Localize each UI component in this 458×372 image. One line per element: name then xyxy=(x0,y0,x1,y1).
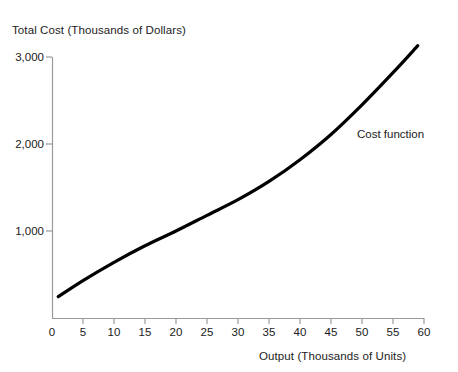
plot-area xyxy=(0,0,458,372)
axis-lines xyxy=(52,57,424,319)
x-axis-tick-label: 50 xyxy=(356,326,369,338)
y-axis-tick-marks xyxy=(46,57,52,231)
x-axis-tick-label: 40 xyxy=(294,326,307,338)
x-axis-tick-label: 30 xyxy=(232,326,245,338)
x-axis-tick-label: 55 xyxy=(387,326,400,338)
x-axis-tick-label: 10 xyxy=(108,326,121,338)
x-axis-tick-label: 35 xyxy=(263,326,276,338)
x-axis-tick-label: 60 xyxy=(418,326,431,338)
x-axis-tick-label: 25 xyxy=(201,326,214,338)
cost-function-annotation: Cost function xyxy=(357,128,424,140)
x-axis-tick-label: 20 xyxy=(170,326,183,338)
cost-function-series xyxy=(58,46,418,297)
x-axis-tick-label: 15 xyxy=(139,326,152,338)
x-axis-tick-label: 45 xyxy=(325,326,338,338)
x-axis-tick-label: 0 xyxy=(49,326,55,338)
x-axis-tick-label: 5 xyxy=(80,326,86,338)
cost-function-line xyxy=(58,46,418,297)
cost-function-chart: Total Cost (Thousands of Dollars) 1,0002… xyxy=(0,0,458,372)
